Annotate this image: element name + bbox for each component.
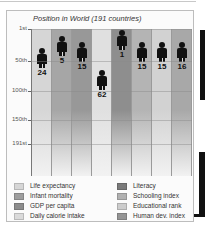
legend-label: Literacy [133, 182, 156, 189]
legend-item: Human dev. index [117, 211, 185, 221]
rank-value: 15 [72, 62, 92, 71]
legend-label: Schooling index [133, 192, 179, 199]
rank-value: 24 [32, 68, 52, 77]
legend-item: Daily calorie intake [14, 211, 85, 221]
legend-item: Schooling index [117, 191, 185, 201]
y-tick-label: 50th [1, 57, 27, 63]
legend-label: Life expectancy [30, 182, 75, 189]
chart-title: Position in World (191 countries) [33, 14, 141, 23]
legend-item: Literacy [117, 181, 185, 191]
gridline [32, 144, 192, 145]
y-tick-label: 191st [1, 140, 27, 146]
page-edge-bar-foot [194, 214, 205, 217]
legend-swatch [117, 203, 127, 210]
rank-value: 1 [112, 50, 132, 59]
legend-swatch [14, 213, 24, 220]
legend-item: Infant mortality [14, 191, 85, 201]
legend-swatch [117, 213, 127, 220]
legend-swatch [14, 193, 24, 200]
gridline [32, 120, 192, 121]
y-tick-label: 150th [1, 116, 27, 122]
plot-area: 24515621151516 [32, 29, 192, 176]
legend-label: GDP per capita [30, 202, 74, 209]
y-tick-label: 100th [1, 87, 27, 93]
legend-swatch [117, 193, 127, 200]
top-divider [0, 1, 196, 2]
legend-label: Educational rank [133, 202, 181, 209]
legend-item: Educational rank [117, 201, 185, 211]
legend-swatch [117, 183, 127, 190]
page-edge-bar-top [200, 30, 205, 100]
legend-item: Life expectancy [14, 181, 85, 191]
gridline [32, 61, 192, 62]
legend-label: Daily calorie intake [30, 212, 85, 219]
rank-value: 16 [172, 62, 192, 71]
legend-swatch [14, 183, 24, 190]
rank-value: 15 [132, 62, 152, 71]
gridline [32, 29, 192, 30]
legend-swatch [14, 203, 24, 210]
gridline [32, 91, 192, 92]
legend-item: GDP per capita [14, 201, 85, 211]
rank-value: 15 [152, 62, 172, 71]
y-tick-label: 1st [1, 25, 27, 31]
legend-label: Infant mortality [30, 192, 73, 199]
legend-label: Human dev. index [133, 212, 185, 219]
legend-left: Life expectancyInfant mortalityGDP per c… [14, 181, 85, 221]
legend-right: LiteracySchooling indexEducational rankH… [117, 181, 185, 221]
bar-column [92, 29, 112, 176]
page-edge-bar-bottom [199, 152, 205, 217]
